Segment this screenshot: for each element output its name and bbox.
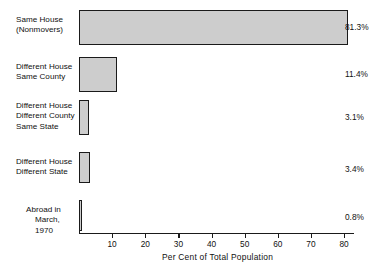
x-tick-10 [112, 234, 113, 238]
category-label-3: Different HouseDifferent State [16, 157, 78, 178]
x-tick-label-70: 70 [300, 239, 322, 249]
category-label-3-line2: Different State [16, 167, 78, 177]
category-label-1: Different HouseSame County [16, 62, 78, 83]
x-tick-80 [344, 234, 345, 238]
x-tick-label-50: 50 [234, 239, 256, 249]
x-tick-label-60: 60 [267, 239, 289, 249]
x-axis-title: Per Cent of Total Population [0, 252, 377, 262]
value-label-3: 3.4% [345, 165, 364, 174]
category-label-4: Abroad inMarch, 1970 [16, 205, 78, 236]
bar-different-house-same-county [79, 57, 117, 92]
x-tick-label-80: 80 [333, 239, 355, 249]
x-tick-label-40: 40 [201, 239, 223, 249]
value-label-1: 11.4% [345, 70, 368, 79]
category-label-1-line1: Different House [16, 62, 78, 72]
bar-different-house-different-state [79, 152, 90, 183]
x-tick-label-10: 10 [101, 239, 123, 249]
x-tick-70 [311, 234, 312, 238]
x-tick-label-30: 30 [167, 239, 189, 249]
x-tick-label-20: 20 [134, 239, 156, 249]
value-label-2: 3.1% [345, 113, 364, 122]
x-tick-50 [245, 234, 246, 238]
category-label-3-line1: Different House [16, 157, 78, 167]
x-tick-20 [145, 234, 146, 238]
x-tick-30 [178, 234, 179, 238]
category-label-1-line2: Same County [16, 72, 78, 82]
x-tick-40 [212, 234, 213, 238]
category-label-2: Different HouseDifferent CountySame Stat… [16, 101, 78, 132]
bar-same-house [79, 10, 348, 45]
category-label-2-line3: Same State [16, 122, 78, 132]
category-label-2-line2: Different County [16, 111, 78, 121]
value-label-0: 81.3% [345, 23, 369, 32]
value-label-4: 0.8% [345, 213, 364, 222]
x-axis-line [79, 233, 354, 234]
category-label-0: Same House(Nonmovers) [16, 15, 78, 36]
category-label-0-line1: Same House [16, 15, 78, 25]
category-label-2-line1: Different House [16, 101, 78, 111]
x-tick-60 [278, 234, 279, 238]
bar-abroad-in-march-1970 [79, 200, 82, 231]
bar-chart: Same House(Nonmovers) 81.3% Different Ho… [0, 0, 377, 269]
category-label-4-line1: Abroad in [16, 205, 78, 215]
category-label-0-line2: (Nonmovers) [16, 25, 78, 35]
category-label-4-line2: March, 1970 [16, 215, 78, 236]
bar-different-house-different-county-same-state [79, 100, 89, 135]
